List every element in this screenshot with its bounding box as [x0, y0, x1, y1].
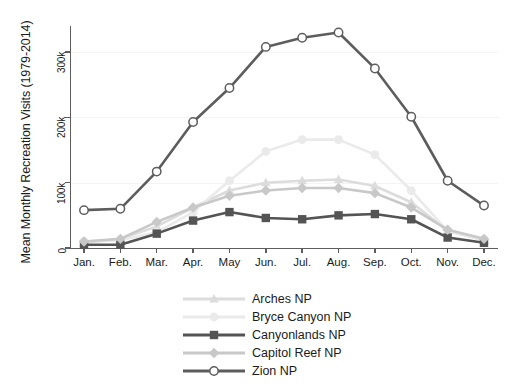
- x-axis-tick-label: Jul.: [293, 256, 311, 268]
- data-point-marker: [225, 84, 233, 92]
- data-point-marker: [480, 201, 488, 209]
- x-axis-tick: [301, 248, 302, 253]
- x-axis-tick: [483, 248, 484, 253]
- x-axis-tick: [265, 248, 266, 253]
- legend-label: Capitol Reef NP: [252, 346, 342, 360]
- legend-marker-triangle: [183, 291, 245, 307]
- x-axis-tick: [411, 248, 412, 253]
- legend-label: Arches NP: [252, 292, 312, 306]
- data-point-marker: [209, 294, 219, 303]
- data-point-marker: [189, 118, 197, 126]
- y-axis-tick-label: 100k: [61, 183, 62, 184]
- x-axis-tick: [192, 248, 193, 253]
- x-axis-tick-label: Apr.: [183, 256, 203, 268]
- data-point-marker: [443, 177, 451, 185]
- x-axis-line: [70, 248, 498, 249]
- y-axis-title: Mean Monthly Recreation Visits (1979-201…: [19, 12, 33, 272]
- data-point-marker: [334, 28, 342, 36]
- legend-marker-circle: [183, 309, 245, 325]
- x-axis-tick-label: Oct.: [401, 256, 422, 268]
- chart-legend: Arches NPBryce Canyon NPCanyonlands NPCa…: [183, 291, 351, 379]
- x-axis-tick-label: Dec.: [472, 256, 496, 268]
- data-point-marker: [261, 185, 271, 195]
- legend-item-capitol-reef-np[interactable]: Capitol Reef NP: [183, 345, 351, 361]
- y-axis-tick-label: 200k: [61, 117, 62, 118]
- y-axis-tick-label: 0: [61, 248, 62, 249]
- data-point-marker: [407, 186, 416, 195]
- data-point-marker: [333, 183, 343, 193]
- data-point-marker: [371, 210, 379, 218]
- x-axis-tick-label: Sep.: [363, 256, 387, 268]
- x-axis-tick-label: Nov.: [436, 256, 459, 268]
- data-point-marker: [371, 64, 379, 72]
- data-point-marker: [407, 113, 415, 121]
- x-axis-tick-label: Feb.: [109, 256, 132, 268]
- data-point-marker: [153, 167, 161, 175]
- legend-label: Zion NP: [252, 364, 297, 378]
- data-point-marker: [210, 313, 219, 322]
- data-point-marker: [334, 211, 342, 219]
- data-point-marker: [153, 229, 161, 237]
- x-axis-tick-label: Jun.: [255, 256, 277, 268]
- x-axis-tick: [374, 248, 375, 253]
- data-point-marker: [116, 205, 124, 213]
- data-point-marker: [261, 147, 270, 156]
- plot-area: 0100k200k300k Jan.Feb.Mar.Apr.MayJun.Jul…: [70, 26, 498, 248]
- x-axis-tick: [447, 248, 448, 253]
- x-axis-tick: [229, 248, 230, 253]
- legend-marker-circle-open: [183, 363, 245, 379]
- legend-label: Canyonlands NP: [252, 328, 346, 342]
- legend-marker-diamond: [183, 345, 245, 361]
- data-point-marker: [371, 150, 380, 159]
- data-point-marker: [210, 331, 218, 339]
- data-point-marker: [262, 43, 270, 51]
- data-point-marker: [298, 215, 306, 223]
- data-point-marker: [407, 215, 415, 223]
- data-point-marker: [298, 135, 307, 144]
- legend-item-bryce-canyon-np[interactable]: Bryce Canyon NP: [183, 309, 351, 325]
- data-point-marker: [262, 214, 270, 222]
- legend-item-zion-np[interactable]: Zion NP: [183, 363, 351, 379]
- series-line: [84, 188, 484, 242]
- chart-figure: Mean Monthly Recreation Visits (1979-201…: [0, 0, 518, 389]
- x-axis-tick-label: May: [219, 256, 241, 268]
- data-point-marker: [209, 348, 219, 358]
- legend-item-arches-np[interactable]: Arches NP: [183, 291, 351, 307]
- data-point-marker: [298, 34, 306, 42]
- data-series-layer: [70, 26, 498, 248]
- series-zion-np: [80, 28, 488, 214]
- x-axis-tick-label: Aug.: [327, 256, 351, 268]
- data-point-marker: [189, 216, 197, 224]
- x-axis-tick-label: Mar.: [146, 256, 168, 268]
- data-point-marker: [210, 367, 218, 375]
- data-point-marker: [334, 135, 343, 144]
- y-axis-tick-label: 300k: [61, 52, 62, 53]
- data-point-marker: [80, 206, 88, 214]
- legend-label: Bryce Canyon NP: [252, 310, 351, 324]
- series-line: [84, 33, 484, 211]
- data-point-marker: [225, 208, 233, 216]
- data-point-marker: [225, 176, 234, 185]
- x-axis-tick: [156, 248, 157, 253]
- x-axis-tick: [338, 248, 339, 253]
- legend-marker-square-filled: [183, 327, 245, 343]
- x-axis-tick-label: Jan.: [73, 256, 95, 268]
- legend-item-canyonlands-np[interactable]: Canyonlands NP: [183, 327, 351, 343]
